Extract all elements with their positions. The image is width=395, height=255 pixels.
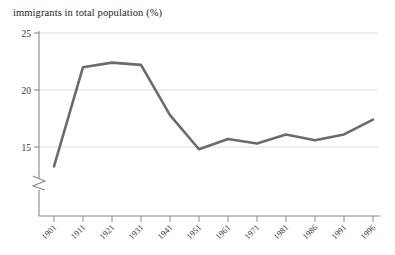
x-tick-label-1921: 1921	[97, 222, 116, 241]
y-tick-label-20: 20	[22, 86, 32, 96]
x-tick-label-1981: 1981	[271, 222, 290, 241]
x-tick-label-1931: 1931	[126, 222, 145, 241]
x-tick-label-1911: 1911	[69, 222, 88, 241]
x-tick-label-1986: 1986	[300, 222, 319, 241]
x-tick-label-1971: 1971	[242, 222, 261, 241]
data-series-line	[54, 63, 373, 167]
x-tick-label-1951: 1951	[184, 222, 203, 241]
gridlines	[39, 33, 378, 147]
x-tick-label-1901: 1901	[39, 222, 58, 241]
y-tick-label-25: 25	[22, 29, 32, 39]
y-tick-marks	[34, 33, 39, 147]
line-chart-plot: 25 20 15 1901 1911 1921 1931 1941	[0, 0, 395, 255]
x-tick-label-1996: 1996	[358, 222, 377, 241]
y-axis-break-icon	[33, 176, 45, 190]
x-tick-marks	[54, 216, 373, 222]
x-tick-labels: 1901 1911 1921 1931 1941 1951 1961 1971 …	[39, 222, 377, 241]
x-tick-label-1941: 1941	[155, 222, 174, 241]
y-tick-label-15: 15	[22, 143, 32, 153]
chart-screenshot: immigrants in total population (%) 25 20…	[0, 0, 395, 255]
x-tick-label-1991: 1991	[329, 222, 348, 241]
x-tick-label-1961: 1961	[213, 222, 232, 241]
